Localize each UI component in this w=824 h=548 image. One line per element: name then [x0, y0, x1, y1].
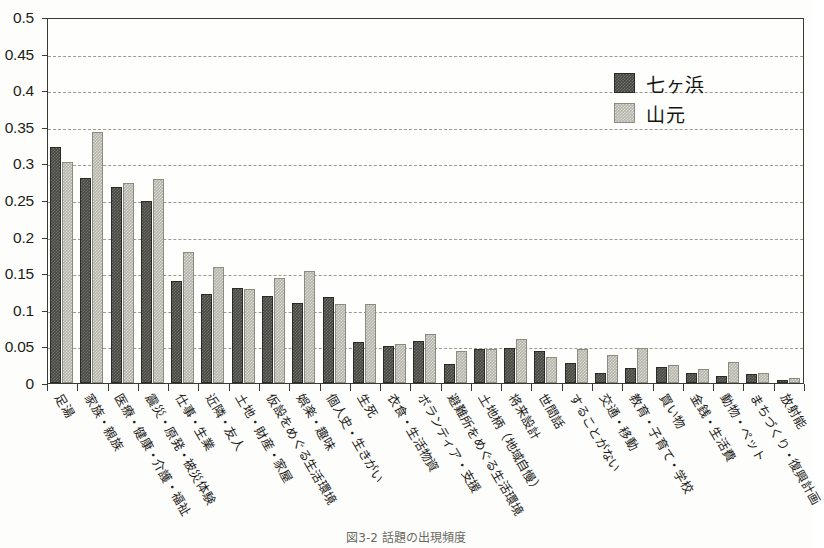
- bar-shichigahama: [111, 187, 122, 383]
- bar-yamamoto: [92, 132, 103, 383]
- bar-group: [744, 19, 774, 383]
- x-axis-tick-mark: [653, 384, 654, 391]
- y-axis-tick-label: 0.3: [0, 155, 34, 173]
- bar-group: [775, 19, 804, 383]
- bar-yamamoto: [123, 183, 134, 383]
- y-axis-tick-label: 0.45: [0, 46, 34, 64]
- bar-shichigahama: [716, 376, 727, 383]
- y-axis-tick-mark: [42, 201, 47, 202]
- y-axis-tick-label: 0.15: [0, 265, 34, 283]
- bar-yamamoto: [607, 355, 618, 383]
- chart-legend: 七ヶ浜 山元: [608, 66, 711, 131]
- bar-yamamoto: [456, 351, 467, 383]
- bar-yamamoto: [365, 304, 376, 383]
- bar-group: [199, 19, 229, 383]
- bar-yamamoto: [425, 334, 436, 383]
- x-axis-category-label: 放射能: [779, 392, 809, 431]
- bar-group: [109, 19, 139, 383]
- bar-yamamoto: [153, 179, 164, 383]
- x-axis-tick-mark: [138, 384, 139, 391]
- bar-group: [532, 19, 562, 383]
- y-axis-tick-label: 0.1: [0, 302, 34, 320]
- bar-shichigahama: [534, 351, 545, 383]
- x-axis-tick-mark: [350, 384, 351, 391]
- bar-yamamoto: [274, 278, 285, 383]
- bar-yamamoto: [577, 349, 588, 383]
- x-axis-tick-mark: [713, 384, 714, 391]
- bar-shichigahama: [413, 341, 424, 383]
- bar-group: [290, 19, 320, 383]
- bar-group: [563, 19, 593, 383]
- bar-shichigahama: [201, 294, 212, 383]
- x-axis-tick-mark: [592, 384, 593, 391]
- x-axis-tick-mark: [380, 384, 381, 391]
- bar-shichigahama: [686, 373, 697, 383]
- x-axis-tick-mark: [47, 384, 48, 391]
- y-axis-tick-mark: [42, 164, 47, 165]
- bar-yamamoto: [728, 362, 739, 383]
- bar-shichigahama: [232, 288, 243, 383]
- x-axis-tick-mark: [471, 384, 472, 391]
- x-axis-tick-mark: [441, 384, 442, 391]
- x-axis-tick-mark: [774, 384, 775, 391]
- x-axis-tick-mark: [804, 384, 805, 391]
- x-axis-tick-mark: [229, 384, 230, 391]
- bar-shichigahama: [656, 367, 667, 383]
- bar-yamamoto: [668, 365, 679, 383]
- bar-shichigahama: [50, 147, 61, 383]
- x-axis-tick-mark: [320, 384, 321, 391]
- bar-yamamoto: [546, 357, 557, 383]
- x-axis-tick-mark: [501, 384, 502, 391]
- bar-group: [169, 19, 199, 383]
- legend-swatch-icon-shichigahama: [614, 73, 635, 93]
- legend-label-shichigahama: 七ヶ浜: [646, 70, 705, 97]
- y-axis-tick-mark: [42, 311, 47, 312]
- legend-item-yamamoto: 山元: [614, 98, 705, 128]
- bar-yamamoto: [516, 339, 527, 383]
- x-axis-tick-mark: [622, 384, 623, 391]
- bar-shichigahama: [746, 374, 757, 383]
- x-axis-tick-mark: [410, 384, 411, 391]
- bar-group: [321, 19, 351, 383]
- bar-shichigahama: [171, 281, 182, 383]
- legend-label-yamamoto: 山元: [646, 100, 685, 127]
- y-axis-tick-mark: [42, 55, 47, 56]
- x-axis-tick-mark: [198, 384, 199, 391]
- y-axis-tick-label: 0.05: [0, 338, 34, 356]
- x-axis-category-label: 買い物: [658, 392, 688, 431]
- bar-shichigahama: [625, 368, 636, 383]
- bar-group: [260, 19, 290, 383]
- bar-group: [502, 19, 532, 383]
- bar-group: [351, 19, 381, 383]
- bar-yamamoto: [213, 267, 224, 383]
- bar-yamamoto: [486, 349, 497, 383]
- bar-shichigahama: [444, 364, 455, 383]
- bar-group: [381, 19, 411, 383]
- x-axis-category-label: 世間話: [536, 392, 566, 431]
- bar-group: [714, 19, 744, 383]
- x-axis-tick-mark: [259, 384, 260, 391]
- bar-group: [442, 19, 472, 383]
- bar-yamamoto: [62, 162, 73, 383]
- bar-shichigahama: [292, 303, 303, 383]
- x-axis-tick-mark: [77, 384, 78, 391]
- x-axis-tick-mark: [108, 384, 109, 391]
- bar-yamamoto: [395, 344, 406, 383]
- x-axis-tick-mark: [531, 384, 532, 391]
- bar-shichigahama: [777, 380, 788, 383]
- y-axis-tick-label: 0.35: [0, 119, 34, 137]
- bar-shichigahama: [565, 363, 576, 383]
- bar-yamamoto: [244, 289, 255, 383]
- legend-item-shichigahama: 七ヶ浜: [614, 68, 705, 98]
- bar-shichigahama: [383, 346, 394, 383]
- x-axis-category-label: 生死: [355, 392, 378, 420]
- bar-group: [472, 19, 502, 383]
- bar-shichigahama: [141, 201, 152, 383]
- bar-yamamoto: [758, 373, 769, 383]
- bar-yamamoto: [183, 252, 194, 383]
- x-axis-tick-mark: [683, 384, 684, 391]
- bar-yamamoto: [789, 378, 800, 383]
- bar-shichigahama: [595, 373, 606, 383]
- figure-caption: 図3-2 話題の出現頻度: [0, 528, 812, 548]
